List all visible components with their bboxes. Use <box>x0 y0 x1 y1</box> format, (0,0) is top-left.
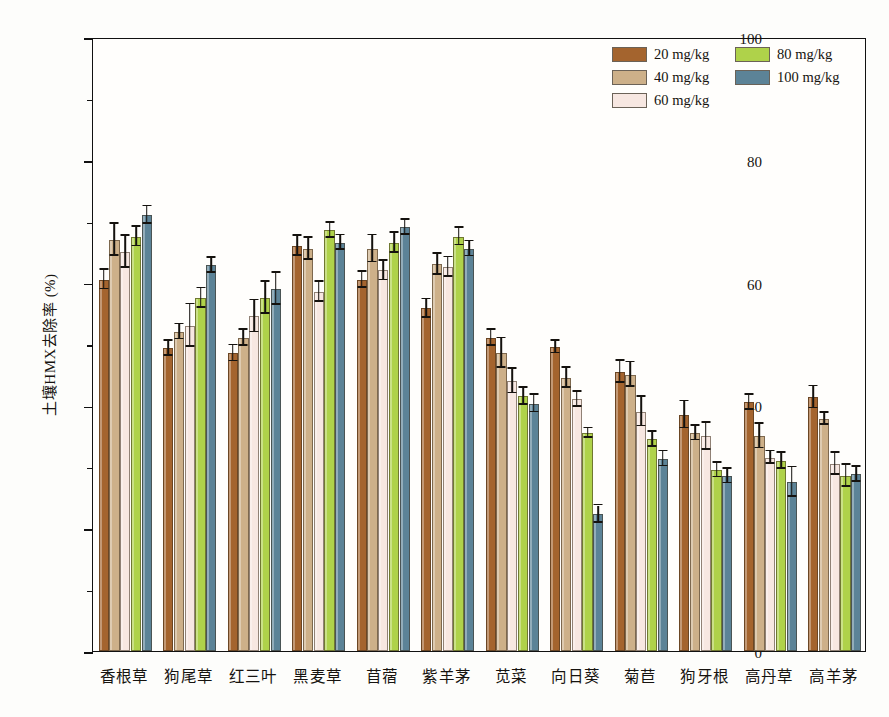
bar[interactable] <box>593 37 603 651</box>
bar[interactable] <box>432 37 442 651</box>
error-bar-cap-bottom <box>303 258 312 260</box>
bar-fill <box>561 378 571 651</box>
bar-fill <box>529 404 539 651</box>
error-bar-cap-bottom <box>712 476 721 478</box>
legend-item: 40 mg/kg <box>612 67 735 87</box>
bar[interactable] <box>464 37 474 651</box>
bar[interactable] <box>518 37 528 651</box>
bar[interactable] <box>174 37 184 651</box>
bar[interactable] <box>582 37 592 651</box>
bar[interactable] <box>722 37 732 651</box>
legend-swatch <box>735 47 770 62</box>
bar[interactable] <box>754 37 764 651</box>
bar[interactable] <box>238 37 248 651</box>
bar[interactable] <box>195 37 205 651</box>
bar[interactable] <box>765 37 775 651</box>
bar[interactable] <box>335 37 345 651</box>
error-bar-cap-top <box>121 234 130 236</box>
bar[interactable] <box>744 37 754 651</box>
bar[interactable] <box>496 37 506 651</box>
bar[interactable] <box>249 37 259 651</box>
bar[interactable] <box>185 37 195 651</box>
bar-fill <box>271 289 281 651</box>
bar-fill <box>421 308 431 651</box>
error-bar-cap-bottom <box>658 465 667 467</box>
bar[interactable] <box>260 37 270 651</box>
bar[interactable] <box>378 37 388 651</box>
bar[interactable] <box>615 37 625 651</box>
bar[interactable] <box>840 37 850 651</box>
error-bar <box>565 368 567 388</box>
bar[interactable] <box>206 37 216 651</box>
bar[interactable] <box>314 37 324 651</box>
bar[interactable] <box>400 37 410 651</box>
bar[interactable] <box>711 37 721 651</box>
error-bar-cap-bottom <box>99 288 108 290</box>
bar[interactable] <box>99 37 109 651</box>
error-bar-cap-bottom <box>357 286 366 288</box>
bar[interactable] <box>550 37 560 651</box>
bar[interactable] <box>292 37 302 651</box>
bar[interactable] <box>830 37 840 651</box>
bar[interactable] <box>507 37 517 651</box>
bar-fill <box>808 397 818 651</box>
error-bar-cap-bottom <box>497 366 506 368</box>
error-bar-cap-top <box>637 395 646 397</box>
bar[interactable] <box>561 37 571 651</box>
bar-group <box>228 39 281 651</box>
bar[interactable] <box>131 37 141 651</box>
bar[interactable] <box>851 37 861 651</box>
bar-fill <box>615 372 625 651</box>
chart-figure: 土壤HMX去除率 (%) 020406080100 20 mg/kg40 mg/… <box>0 0 889 717</box>
bar-fill <box>400 227 410 651</box>
error-bar <box>436 254 438 275</box>
error-bar-cap-top <box>497 337 506 339</box>
y-tick-major <box>84 284 93 286</box>
bar[interactable] <box>679 37 689 651</box>
bar[interactable] <box>453 37 463 651</box>
error-bar-cap-top <box>379 259 388 261</box>
bar[interactable] <box>776 37 786 651</box>
error-bar <box>200 288 202 308</box>
bar[interactable] <box>690 37 700 651</box>
bar[interactable] <box>367 37 377 651</box>
bar-fill <box>314 292 324 651</box>
error-bar <box>705 423 707 450</box>
bar[interactable] <box>120 37 130 651</box>
error-bar <box>447 257 449 277</box>
bar[interactable] <box>572 37 582 651</box>
error-bar-cap-top <box>293 234 302 236</box>
bar[interactable] <box>658 37 668 651</box>
bar[interactable] <box>142 37 152 651</box>
bar-fill <box>819 419 829 651</box>
bar[interactable] <box>228 37 238 651</box>
bar[interactable] <box>647 37 657 651</box>
bar[interactable] <box>324 37 334 651</box>
bar[interactable] <box>443 37 453 651</box>
bar[interactable] <box>163 37 173 651</box>
bar-fill <box>679 415 689 651</box>
error-bar <box>318 282 320 302</box>
error-bar <box>264 282 266 314</box>
bar[interactable] <box>636 37 646 651</box>
bar[interactable] <box>701 37 711 651</box>
bar-fill <box>711 470 721 651</box>
error-bar-cap-bottom <box>809 407 818 409</box>
bar[interactable] <box>819 37 829 651</box>
bar[interactable] <box>357 37 367 651</box>
error-bar-cap-top <box>486 328 495 330</box>
bar[interactable] <box>271 37 281 651</box>
bar[interactable] <box>486 37 496 651</box>
bar[interactable] <box>529 37 539 651</box>
error-bar-cap-bottom <box>755 447 764 449</box>
bar[interactable] <box>808 37 818 651</box>
error-bar-cap-bottom <box>465 255 474 257</box>
bar[interactable] <box>421 37 431 651</box>
bar-fill <box>507 381 517 651</box>
bar[interactable] <box>109 37 119 651</box>
bar[interactable] <box>389 37 399 651</box>
bar[interactable] <box>787 37 797 651</box>
bar[interactable] <box>303 37 313 651</box>
bar[interactable] <box>625 37 635 651</box>
bar-fill <box>206 265 216 651</box>
